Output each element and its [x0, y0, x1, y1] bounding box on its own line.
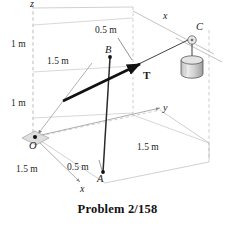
- leader-line-bc-offset: [118, 38, 132, 60]
- z-axis-label: z: [30, 0, 34, 9]
- leader-line-a-offset: [99, 160, 102, 170]
- figure-caption: Problem 2/158: [0, 202, 235, 217]
- ground-edge-oy: [35, 110, 160, 137]
- dim-ground-left: 1.5 m: [16, 165, 38, 175]
- point-c-label: C: [196, 22, 203, 33]
- ground-diag-helper: [133, 115, 209, 143]
- x-axis-label-upper: x: [163, 11, 167, 21]
- x-axis-upper: [133, 11, 222, 62]
- node-b: [108, 55, 112, 59]
- ground-edge-ox: [35, 137, 105, 183]
- dim-ground-right: 1.5 m: [137, 143, 159, 153]
- dim-oa-offset: 0.5 m: [67, 163, 89, 173]
- pulley-c: [188, 36, 196, 44]
- point-a-label: A: [97, 174, 103, 185]
- cable-to-c: [63, 39, 190, 101]
- y-axis-label: y: [163, 103, 167, 113]
- figure-container: z x y x O A B C 1 m 1 m 0.5 m 1.5 m 1.5 …: [0, 0, 235, 230]
- point-b-label: B: [105, 45, 111, 56]
- node-o: [33, 135, 37, 139]
- point-o-label: O: [29, 141, 37, 152]
- dim-ob-horizontal: 1.5 m: [47, 57, 69, 67]
- x-axis-label-lower: x: [80, 184, 84, 194]
- y-axis: [37, 108, 160, 136]
- ref-line-top: [33, 18, 133, 25]
- cylinder-weight: [181, 56, 203, 78]
- dim-vertical-lower: 1 m: [11, 99, 26, 109]
- statics-3d-diagram: [0, 0, 235, 230]
- back-plane-top-edge: [33, 7, 133, 8]
- ground-edge-far-right: [160, 110, 209, 143]
- construction-line-o-to-cable: [38, 63, 92, 134]
- ref-line-middle: [33, 66, 133, 72]
- dim-vertical-upper: 1 m: [11, 40, 26, 50]
- plane-reference-lines: [33, 18, 133, 118]
- x-axis-lower: [36, 139, 80, 182]
- ground-plane: [35, 110, 209, 183]
- tension-label: T: [143, 70, 150, 81]
- dim-bc-offset: 0.5 m: [95, 26, 117, 36]
- member-ab: [103, 58, 110, 172]
- ground-edge-front-right: [105, 162, 209, 183]
